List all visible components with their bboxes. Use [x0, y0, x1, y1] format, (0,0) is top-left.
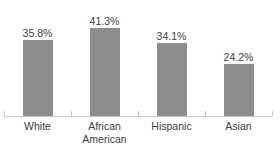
- bar-value-label: 35.8%: [4, 27, 71, 39]
- category-label-line1: Asian: [225, 120, 251, 132]
- category-label-line1: African: [88, 120, 121, 132]
- x-axis-tick: [205, 111, 206, 116]
- x-axis-tick: [272, 111, 273, 116]
- bar-african-american: [90, 28, 120, 116]
- x-axis-tick: [4, 111, 5, 116]
- bar-value-label: 41.3%: [71, 15, 138, 27]
- category-label-line1: White: [24, 120, 51, 132]
- category-label-line2: American: [71, 133, 138, 146]
- bar-white: [23, 40, 53, 116]
- x-axis-tick: [138, 111, 139, 116]
- clipped-title-strip: [0, 0, 280, 7]
- category-labels: White African American Hispanic Asian: [0, 120, 280, 156]
- plot-area: 35.8% 41.3% 34.1% 24.2%: [0, 7, 280, 116]
- bar-value-label: 34.1%: [138, 30, 205, 42]
- x-axis-line: [4, 116, 272, 117]
- bar-hispanic: [157, 43, 187, 116]
- bar-group-african-american: 41.3%: [71, 7, 138, 116]
- category-label-line1: Hispanic: [151, 120, 191, 132]
- bar-asian: [224, 64, 254, 116]
- bar-group-white: 35.8%: [4, 7, 71, 116]
- category-label-hispanic: Hispanic: [138, 120, 205, 133]
- bar-chart: 35.8% 41.3% 34.1% 24.2% White African Am…: [0, 0, 280, 156]
- bar-value-label: 24.2%: [205, 51, 272, 63]
- x-axis-tick: [71, 111, 72, 116]
- category-label-white: White: [4, 120, 71, 133]
- bar-group-hispanic: 34.1%: [138, 7, 205, 116]
- category-label-asian: Asian: [205, 120, 272, 133]
- category-label-african-american: African American: [71, 120, 138, 146]
- bar-group-asian: 24.2%: [205, 7, 272, 116]
